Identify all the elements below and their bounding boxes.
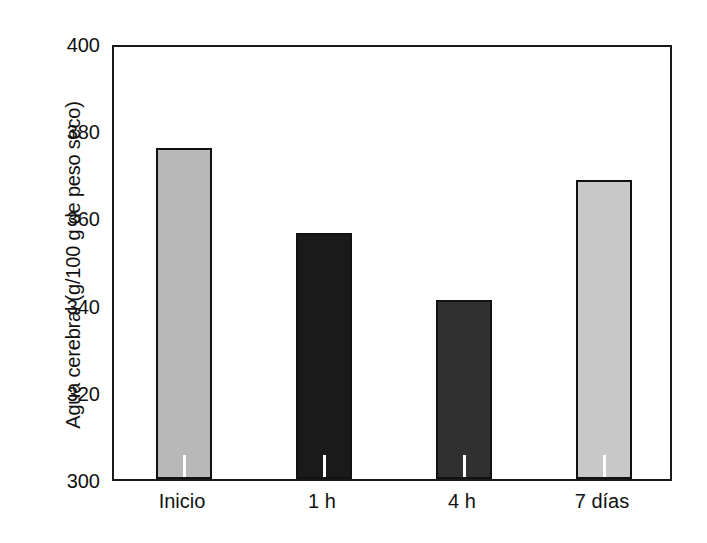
x-axis-tick-label: 4 h [448,490,476,513]
y-axis-tick-label: 400 [67,34,100,57]
y-axis-tick-label: 340 [67,295,100,318]
bar-baseline-notch [463,455,466,477]
bar [156,148,212,479]
y-axis-tick-label: 380 [67,121,100,144]
bar-chart-figure: Agua cerebral (g/100 g de peso seco) 300… [0,0,707,543]
bar-baseline-notch [603,455,606,477]
bar-baseline-notch [323,455,326,477]
y-axis-tick-label: 360 [67,208,100,231]
y-axis-tick-label: 300 [67,470,100,493]
x-axis-tick-label: 1 h [308,490,336,513]
y-axis-tick-label: 320 [67,382,100,405]
plot-area [112,45,672,481]
y-axis-title: Agua cerebral (g/100 g de peso seco) [58,30,88,500]
bar-baseline-notch [183,455,186,477]
bar [436,300,492,479]
x-axis-tick-label: Inicio [159,490,206,513]
x-axis-tick-label: 7 días [575,490,629,513]
bar [576,180,632,479]
bar [296,233,352,479]
